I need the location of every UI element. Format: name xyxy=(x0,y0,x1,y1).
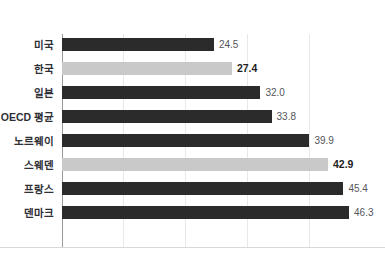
bar xyxy=(62,206,349,219)
bar-value-label: 32.0 xyxy=(265,86,284,99)
bar xyxy=(62,86,260,99)
x-axis-baseline xyxy=(0,247,385,248)
bar-row: 미국24.5 xyxy=(62,38,385,51)
category-label: 덴마크 xyxy=(0,205,54,220)
bar-chart: 미국24.5한국27.4일본32.0OECD 평균33.8노르웨이39.9스웨덴… xyxy=(0,0,385,263)
bar xyxy=(62,158,328,171)
category-label: 프랑스 xyxy=(0,181,54,196)
bar-value-label: 39.9 xyxy=(314,134,333,147)
bar xyxy=(62,110,272,123)
bar xyxy=(62,38,214,51)
bar-value-label: 24.5 xyxy=(219,38,238,51)
bar-value-label: 33.8 xyxy=(277,110,296,123)
bar xyxy=(62,62,232,75)
bar-value-label: 45.4 xyxy=(348,182,367,195)
category-label: 일본 xyxy=(0,85,54,100)
bar-row: OECD 평균33.8 xyxy=(62,110,385,123)
bar-row: 한국27.4 xyxy=(62,62,385,75)
category-label: 노르웨이 xyxy=(0,133,54,148)
category-label: OECD 평균 xyxy=(0,109,54,124)
bar-row: 프랑스45.4 xyxy=(62,182,385,195)
bar-row: 일본32.0 xyxy=(62,86,385,99)
bar-value-label: 42.9 xyxy=(333,158,353,171)
bar xyxy=(62,134,309,147)
bar-value-label: 46.3 xyxy=(354,206,373,219)
bar-value-label: 27.4 xyxy=(237,62,257,75)
category-label: 한국 xyxy=(0,61,54,76)
category-label: 미국 xyxy=(0,37,54,52)
category-label: 스웨덴 xyxy=(0,157,54,172)
bar-row: 덴마크46.3 xyxy=(62,206,385,219)
bar xyxy=(62,182,343,195)
bar-row: 노르웨이39.9 xyxy=(62,134,385,147)
bar-row: 스웨덴42.9 xyxy=(62,158,385,171)
